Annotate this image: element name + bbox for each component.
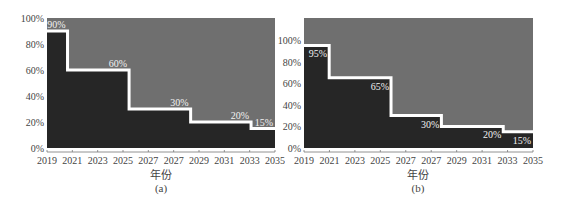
x-tick-label: 2033 (240, 155, 260, 166)
value-label: 15% (255, 117, 273, 128)
x-tick-label: 2023 (345, 155, 365, 166)
x-tick-label: 2031 (214, 155, 234, 166)
panel-caption-b: (b) (403, 182, 433, 194)
value-label: 90% (47, 19, 65, 30)
y-tick-label: 40% (26, 91, 44, 102)
y-tick-label: 40% (283, 100, 301, 111)
x-tick-label: 2021 (62, 155, 82, 166)
y-tick-label: 100% (278, 35, 301, 46)
x-tick-label: 2023 (88, 155, 108, 166)
x-tick-label: 2021 (319, 155, 339, 166)
x-tick-label: 2019 (37, 155, 57, 166)
chart-panel-b: 95%65%30%20%15%0%20%40%60%80%100%2019202… (275, 0, 567, 209)
y-tick-label: 60% (283, 78, 301, 89)
value-label: 15% (513, 135, 531, 146)
x-tick-label: 2025 (113, 155, 133, 166)
y-tick-label: 100% (21, 13, 44, 24)
y-tick-label: 0% (288, 143, 301, 154)
x-tick-label: 2019 (294, 155, 314, 166)
x-axis-label-b: 年份 (393, 166, 443, 182)
x-tick-label: 2035 (523, 155, 543, 166)
x-tick-label: 2025 (370, 155, 390, 166)
step-area-chart-a: 90%60%30%20%15%0%20%40%60%80%100%2019202… (0, 0, 285, 170)
x-tick-label: 2029 (447, 155, 467, 166)
chart-panel-a: 90%60%30%20%15%0%20%40%60%80%100%2019202… (0, 0, 285, 209)
value-label: 30% (421, 119, 439, 130)
y-tick-label: 80% (283, 57, 301, 68)
y-tick-label: 60% (26, 65, 44, 76)
value-label: 20% (483, 129, 501, 140)
x-tick-label: 2027 (396, 155, 416, 166)
x-tick-label: 2027 (138, 155, 158, 166)
x-tick-label: 2027 (164, 155, 184, 166)
value-label: 95% (309, 48, 327, 59)
value-label: 65% (371, 81, 389, 92)
panel-caption-a: (a) (146, 182, 176, 194)
value-label: 20% (231, 110, 249, 121)
y-tick-label: 0% (31, 143, 44, 154)
x-tick-label: 2033 (498, 155, 518, 166)
x-tick-label: 2029 (189, 155, 209, 166)
value-label: 60% (109, 58, 127, 69)
x-tick-label: 2031 (472, 155, 492, 166)
step-area-chart-b: 95%65%30%20%15%0%20%40%60%80%100%2019202… (275, 0, 567, 170)
y-tick-label: 80% (26, 39, 44, 50)
x-tick-label: 2027 (421, 155, 441, 166)
y-tick-label: 20% (26, 117, 44, 128)
value-label: 30% (170, 97, 188, 108)
y-tick-label: 20% (283, 121, 301, 132)
x-axis-label-a: 年份 (136, 166, 186, 182)
